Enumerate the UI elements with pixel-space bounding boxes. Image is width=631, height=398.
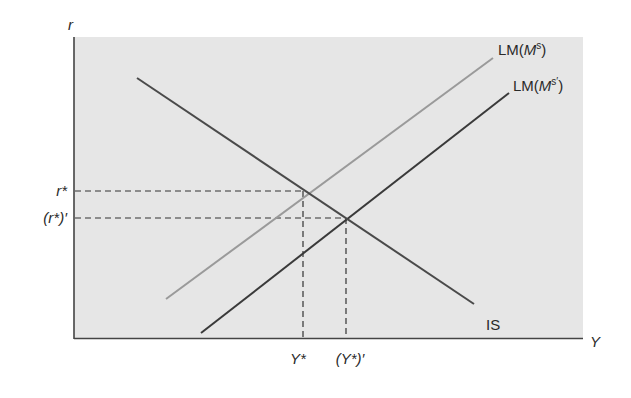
plot-area: [74, 37, 583, 338]
r-star-new-label: (r*)′: [43, 209, 68, 226]
is-lm-diagram: r Y LM(Ms) LM(Ms′) IS r* (r*)′ Y* (Y*)′: [0, 0, 631, 398]
y-star-label: Y*: [290, 350, 307, 367]
r-star-label: r*: [56, 182, 68, 199]
y-axis-label: r: [68, 16, 74, 33]
y-star-new-label: (Y*)′: [336, 350, 366, 367]
is-label: IS: [486, 316, 500, 333]
x-axis-label: Y: [590, 333, 601, 350]
